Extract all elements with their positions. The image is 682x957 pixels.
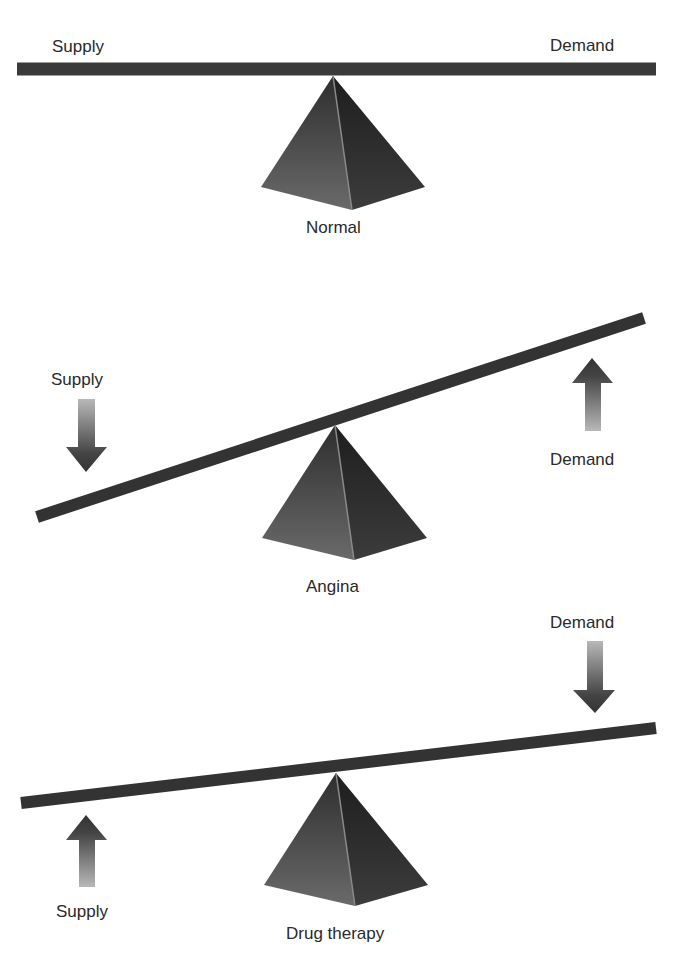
- supply-down-arrow-icon: [66, 399, 107, 472]
- caption-drug-therapy: Drug therapy: [286, 925, 384, 942]
- demand-down-arrow-icon: [573, 641, 615, 713]
- supply-label: Supply: [51, 371, 103, 388]
- supply-label: Supply: [56, 903, 108, 920]
- supply-label: Supply: [52, 38, 104, 55]
- fulcrum-pyramid: [262, 425, 427, 560]
- supply-up-arrow-icon: [66, 815, 107, 887]
- fulcrum-pyramid: [261, 76, 425, 210]
- fulcrum-pyramid: [264, 773, 428, 906]
- panel-angina: [37, 318, 644, 560]
- panel-drug-therapy: [21, 641, 656, 906]
- demand-label: Demand: [550, 37, 614, 54]
- caption-angina: Angina: [306, 578, 359, 595]
- demand-label: Demand: [550, 614, 614, 631]
- demand-up-arrow-icon: [572, 358, 613, 431]
- seesaw-diagram: [0, 0, 682, 957]
- demand-label: Demand: [550, 451, 614, 468]
- panel-normal: [17, 69, 656, 210]
- caption-normal: Normal: [306, 219, 361, 236]
